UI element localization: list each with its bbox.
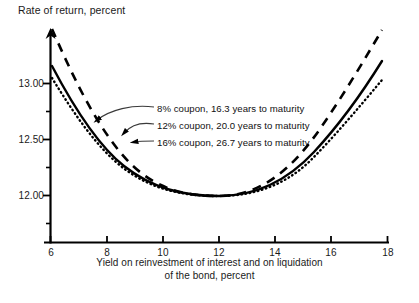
leader-line-8-percent [97, 106, 154, 120]
series-curve-16-percent [52, 29, 382, 196]
leader-line-12-percent [124, 123, 154, 133]
annotation-leaders [97, 106, 154, 142]
y-axis [46, 28, 56, 244]
chart-plot-svg [0, 0, 419, 303]
series-curve-12-percent [52, 61, 382, 196]
chart-figure: Rate of return, percent 13.00 12.50 12.0… [0, 0, 419, 303]
series-curve-8-percent [52, 78, 382, 196]
leader-line-16-percent [134, 141, 154, 142]
